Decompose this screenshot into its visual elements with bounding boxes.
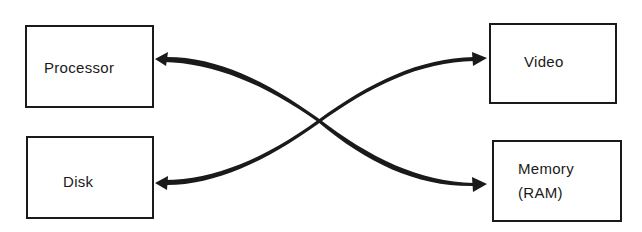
arrowhead-disk bbox=[155, 176, 168, 190]
arrowhead-video bbox=[472, 52, 487, 66]
video-label: Video bbox=[524, 52, 564, 71]
processor-label: Processor bbox=[44, 58, 114, 77]
arrowhead-memory bbox=[472, 177, 487, 192]
memory-label-line1: Memory bbox=[518, 159, 574, 178]
arrow-disk-video bbox=[164, 57, 474, 185]
arrowhead-processor bbox=[155, 52, 168, 66]
memory-label-line2: (RAM) bbox=[518, 183, 563, 202]
disk-label: Disk bbox=[63, 172, 93, 191]
memory-box bbox=[492, 140, 622, 222]
